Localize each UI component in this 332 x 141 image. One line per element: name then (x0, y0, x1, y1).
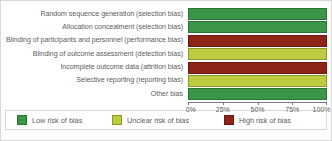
x-axis: 0% 25% 50% 75% 100% (5, 102, 327, 118)
axis-tick-label-100: 100% (312, 105, 330, 114)
axis-tick-label-25: 25% (216, 105, 230, 114)
bar-segment-unclear-risk (188, 48, 327, 60)
row-label-blinding-participants-personnel: Blinding of participants and personnel (… (5, 36, 188, 45)
bar-segment-high-risk (188, 35, 327, 47)
axis-spacer (5, 102, 188, 118)
plot-area: Random sequence generation (selection bi… (5, 5, 327, 109)
axis-tick-label-75: 75% (285, 105, 299, 114)
bar-segment-low-risk (188, 8, 327, 20)
bar-segment-unclear-risk (188, 75, 327, 87)
bar-track (188, 21, 327, 33)
bar-segment-high-risk (188, 62, 327, 74)
table-row: Other bias (5, 88, 327, 100)
bar-track (188, 8, 327, 20)
bar-segment-low-risk (188, 21, 327, 33)
axis-tick-label-50: 50% (250, 105, 264, 114)
row-label-allocation-concealment: Allocation concealment (selection bias) (5, 23, 188, 32)
risk-of-bias-graph: Random sequence generation (selection bi… (0, 0, 332, 141)
row-label-selective-reporting: Selective reporting (reporting bias) (5, 76, 188, 85)
row-label-incomplete-outcome-data: Incomplete outcome data (attrition bias) (5, 63, 188, 72)
bar-track (188, 48, 327, 60)
row-label-blinding-outcome-assessment: Blinding of outcome assessment (detectio… (5, 50, 188, 59)
bar-rows: Random sequence generation (selection bi… (5, 5, 327, 102)
table-row: Blinding of participants and personnel (… (5, 35, 327, 47)
bar-segment-low-risk (188, 88, 327, 100)
table-row: Selective reporting (reporting bias) (5, 75, 327, 87)
axis-tick-label-0: 0% (186, 105, 196, 114)
bar-track (188, 62, 327, 74)
table-row: Incomplete outcome data (attrition bias) (5, 62, 327, 74)
table-row: Allocation concealment (selection bias) (5, 21, 327, 33)
row-label-other-bias: Other bias (5, 90, 188, 99)
axis-scale: 0% 25% 50% 75% 100% (188, 102, 327, 118)
table-row: Random sequence generation (selection bi… (5, 8, 327, 20)
table-row: Blinding of outcome assessment (detectio… (5, 48, 327, 60)
row-label-random-sequence-generation: Random sequence generation (selection bi… (5, 10, 188, 19)
bar-track (188, 35, 327, 47)
bar-track (188, 88, 327, 100)
bar-track (188, 75, 327, 87)
